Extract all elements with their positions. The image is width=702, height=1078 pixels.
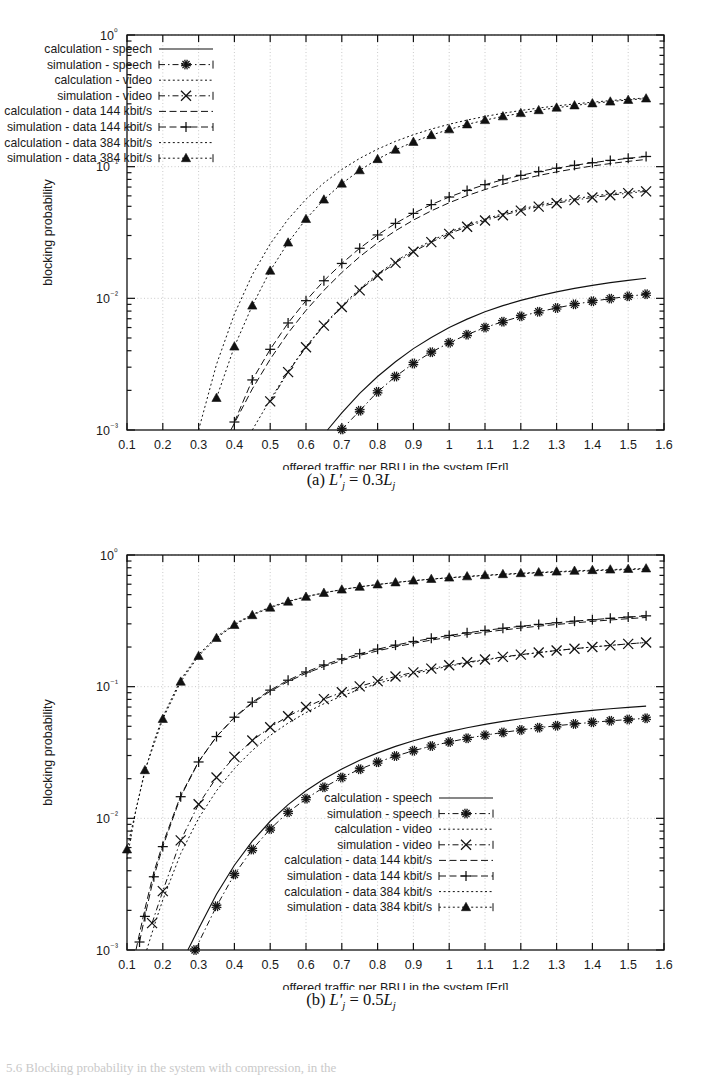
subcaption-a-prefix: (a) (307, 470, 325, 489)
figure-panel-a: 0.10.20.30.40.50.60.70.80.911.11.21.31.4… (0, 0, 702, 520)
legend-label: calculation - speech (44, 42, 152, 56)
x-tick-label: 0.4 (226, 958, 243, 972)
legend-item: calculation - speech (324, 791, 493, 805)
legend-item: simulation - data 384 kbit/s (7, 151, 213, 165)
legend-label: calculation - data 384 kbit/s (4, 136, 152, 150)
x-axis-label: offered traffic per BBU in the system [E… (282, 981, 508, 990)
x-tick-label: 1.3 (548, 438, 565, 452)
x-tick-label: 0.8 (369, 958, 386, 972)
legend-item: calculation - speech (44, 42, 213, 56)
subcaption-b-rhs-sub: j (393, 999, 396, 1011)
y-tick-label: 10⁻² (96, 810, 118, 826)
subcaption-b: (b) L′j = 0.5Lj (0, 990, 702, 1011)
figure-panel-b: 0.10.20.30.40.50.60.70.80.911.11.21.31.4… (0, 520, 702, 1040)
legend-label: simulation - speech (327, 807, 432, 821)
legend-label: calculation - video (54, 73, 152, 87)
subcaption-a-rhs-sub: j (392, 479, 395, 491)
series-6 (199, 98, 646, 430)
x-tick-label: 0.2 (154, 438, 171, 452)
legend-item: simulation - data 144 kbit/s (7, 120, 213, 134)
y-tick-label: 10⁻¹ (96, 678, 118, 694)
legend-item: calculation - data 384 kbit/s (4, 136, 213, 150)
x-tick-label: 1.5 (620, 958, 637, 972)
legend-item: calculation - video (54, 73, 213, 87)
legend-item: simulation - video (337, 838, 493, 852)
legend-label: simulation - video (337, 838, 432, 852)
x-tick-label: 0.2 (154, 958, 171, 972)
x-tick-label: 1.6 (655, 438, 672, 452)
series-1 (337, 289, 651, 434)
x-tick-label: 0.8 (369, 438, 386, 452)
legend-label: simulation - data 384 kbit/s (7, 151, 152, 165)
subcaption-a: (a) L′j = 0.3Lj (0, 470, 702, 491)
legend: calculation - speechsimulation - speechc… (284, 791, 493, 914)
legend-item: calculation - data 384 kbit/s (284, 885, 493, 899)
figure-bottom-caption: 5.6 Blocking probability in the system w… (0, 1060, 702, 1076)
series-7 (212, 94, 651, 402)
legend-label: calculation - data 384 kbit/s (284, 885, 432, 899)
subcaption-a-sub: j (342, 479, 345, 491)
y-tick-label: 10⁻³ (96, 942, 118, 958)
x-tick-label: 1.1 (476, 438, 493, 452)
legend-label: calculation - data 144 kbit/s (4, 104, 152, 118)
y-tick-label: 10⁰ (100, 27, 118, 43)
subcaption-a-rhs: L (383, 470, 392, 489)
series-4 (231, 159, 646, 430)
x-tick-label: 1.2 (512, 438, 529, 452)
x-tick-label: 0.1 (118, 438, 135, 452)
subcaption-b-eq: = (350, 990, 359, 1009)
legend-item: calculation - data 144 kbit/s (4, 104, 213, 118)
chart-panel-b: 0.10.20.30.40.50.60.70.80.911.11.21.31.4… (0, 520, 702, 990)
y-axis-label: blocking probability (41, 179, 55, 286)
x-tick-label: 1.5 (620, 438, 637, 452)
x-tick-label: 0.4 (226, 438, 243, 452)
legend-label: simulation - data 144 kbit/s (287, 869, 432, 883)
x-tick-label: 0.1 (118, 958, 135, 972)
x-axis-label: offered traffic per BBU in the system [E… (282, 461, 508, 470)
subcaption-b-coef: 0.5 (363, 990, 384, 1009)
legend-label: simulation - speech (47, 58, 152, 72)
x-tick-labels: 0.10.20.30.40.50.60.70.80.911.11.21.31.4… (118, 438, 672, 452)
subcaption-a-lhs: L (329, 470, 338, 489)
chart-panel-a: 0.10.20.30.40.50.60.70.80.911.11.21.31.4… (0, 0, 702, 470)
x-tick-label: 1 (446, 438, 453, 452)
y-tick-label: 10⁰ (100, 547, 118, 563)
x-tick-label: 0.7 (333, 438, 350, 452)
legend-label: simulation - data 144 kbit/s (7, 120, 152, 134)
x-tick-label: 1.3 (548, 958, 565, 972)
legend-item: calculation - data 144 kbit/s (284, 853, 493, 867)
legend-label: simulation - video (57, 89, 152, 103)
legend-item: simulation - data 144 kbit/s (287, 869, 493, 883)
legend-label: calculation - speech (324, 791, 432, 805)
y-tick-label: 10⁻² (96, 290, 118, 306)
series-group (199, 94, 651, 435)
x-tick-label: 0.5 (262, 958, 279, 972)
y-axis-label: blocking probability (41, 699, 55, 806)
x-tick-label: 0.9 (405, 438, 422, 452)
x-tick-label: 0.9 (405, 958, 422, 972)
y-tick-label: 10⁻³ (96, 422, 118, 438)
y-tick-labels: 10⁰10⁻¹10⁻²10⁻³ (96, 547, 118, 958)
legend-item: simulation - video (57, 89, 213, 103)
axis-ticks (127, 35, 664, 430)
grid-lines (127, 35, 664, 430)
x-tick-label: 1.2 (512, 958, 529, 972)
legend-item: calculation - video (334, 822, 493, 836)
x-tick-label: 1.4 (584, 958, 601, 972)
x-tick-label: 0.5 (262, 438, 279, 452)
legend-item: simulation - speech (327, 807, 493, 821)
subcaption-b-lhs: L (330, 990, 339, 1009)
legend-item: simulation - data 384 kbit/s (287, 900, 493, 914)
x-tick-label: 0.6 (297, 438, 314, 452)
x-tick-label: 1.1 (476, 958, 493, 972)
x-tick-label: 0.7 (333, 958, 350, 972)
subcaption-a-coef: 0.3 (363, 470, 384, 489)
x-tick-label: 0.6 (297, 958, 314, 972)
series-0 (327, 278, 646, 430)
subcaption-b-prefix: (b) (306, 990, 325, 1009)
legend-label: simulation - data 384 kbit/s (287, 900, 432, 914)
x-tick-label: 1 (446, 958, 453, 972)
legend-label: calculation - video (334, 822, 432, 836)
x-tick-label: 0.3 (190, 958, 207, 972)
legend: calculation - speechsimulation - speechc… (4, 42, 213, 165)
